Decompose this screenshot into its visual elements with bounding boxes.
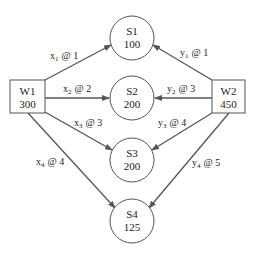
warehouse-w1: W1 300: [10, 80, 45, 113]
warehouse-w2-label: W2: [221, 85, 237, 97]
edge-label-y1: y1@ 1: [180, 47, 208, 60]
warehouse-w1-supply: 300: [19, 98, 36, 110]
store-s4-demand: 125: [124, 221, 141, 233]
edge-label-x4: x4@ 4: [36, 156, 64, 169]
store-s2-label: S2: [126, 85, 138, 97]
store-s3-demand: 200: [124, 160, 141, 172]
warehouse-w1-label: W1: [20, 85, 36, 97]
store-s3: S3 200: [110, 138, 154, 182]
edge-label-y4: y4@ 5: [192, 157, 220, 170]
transportation-diagram: W1 300 W2 450 S1 100 S2 200 S3 200 S4 12…: [0, 0, 260, 256]
warehouse-w2: W2 450: [212, 80, 245, 113]
edge-label-y3: y3@ 4: [158, 117, 186, 130]
store-s3-label: S3: [126, 147, 138, 159]
store-s4: S4 125: [110, 199, 154, 243]
store-s2: S2 200: [110, 76, 154, 120]
warehouse-w2-supply: 450: [220, 98, 237, 110]
edge-label-x3: x3@ 3: [74, 117, 102, 130]
edge-label-y2: y2@ 3: [167, 83, 195, 96]
store-s2-demand: 200: [124, 98, 141, 110]
store-s1-label: S1: [126, 25, 138, 37]
edge-label-x1: x1@ 1: [50, 50, 78, 63]
store-s1: S1 100: [110, 16, 154, 60]
store-s1-demand: 100: [124, 38, 141, 50]
edge-label-x2: x2@ 2: [63, 83, 91, 96]
store-s4-label: S4: [126, 208, 138, 220]
